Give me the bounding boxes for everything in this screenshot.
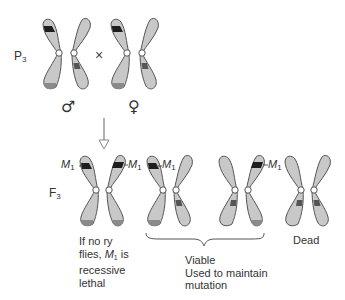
cross-symbol: × (95, 47, 103, 63)
m1-label-pair2: M1 (162, 158, 176, 172)
m1-label-pair1-right: M1 (128, 158, 142, 172)
filial-generation-label: F3 (49, 187, 61, 203)
viable-brace (146, 233, 264, 246)
viable-note: Viable Used to maintain mutation (185, 254, 268, 292)
lethal-note: If no ry flies, M1 is recessive lethal (79, 235, 129, 289)
m1-label-pair1-left: M1 (61, 158, 75, 172)
chromosome-f3-pair3-right (245, 155, 265, 226)
chromosome-f3-pair3-left (219, 156, 238, 226)
male-symbol-icon: ♂ (61, 97, 75, 116)
genetic-cross-diagram (0, 0, 345, 300)
female-symbol-icon: ♀ (128, 97, 140, 116)
chromosome-male-left (43, 19, 62, 89)
chromosome-f3-pair1-right (106, 155, 126, 226)
m1-label-pair3: M1 (268, 158, 282, 172)
chromosome-f3-pair1-left (80, 156, 99, 226)
chromosome-female-right (139, 18, 159, 88)
down-arrow-icon (99, 118, 109, 149)
chromosome-male-right (71, 18, 91, 88)
chromosome-female-left (111, 19, 130, 89)
chromosome-f3-pair4-right (311, 155, 331, 225)
chromosome-f3-pair4-left (285, 156, 304, 226)
parental-generation-label: P3 (14, 50, 26, 66)
dead-note: Dead (293, 234, 319, 247)
